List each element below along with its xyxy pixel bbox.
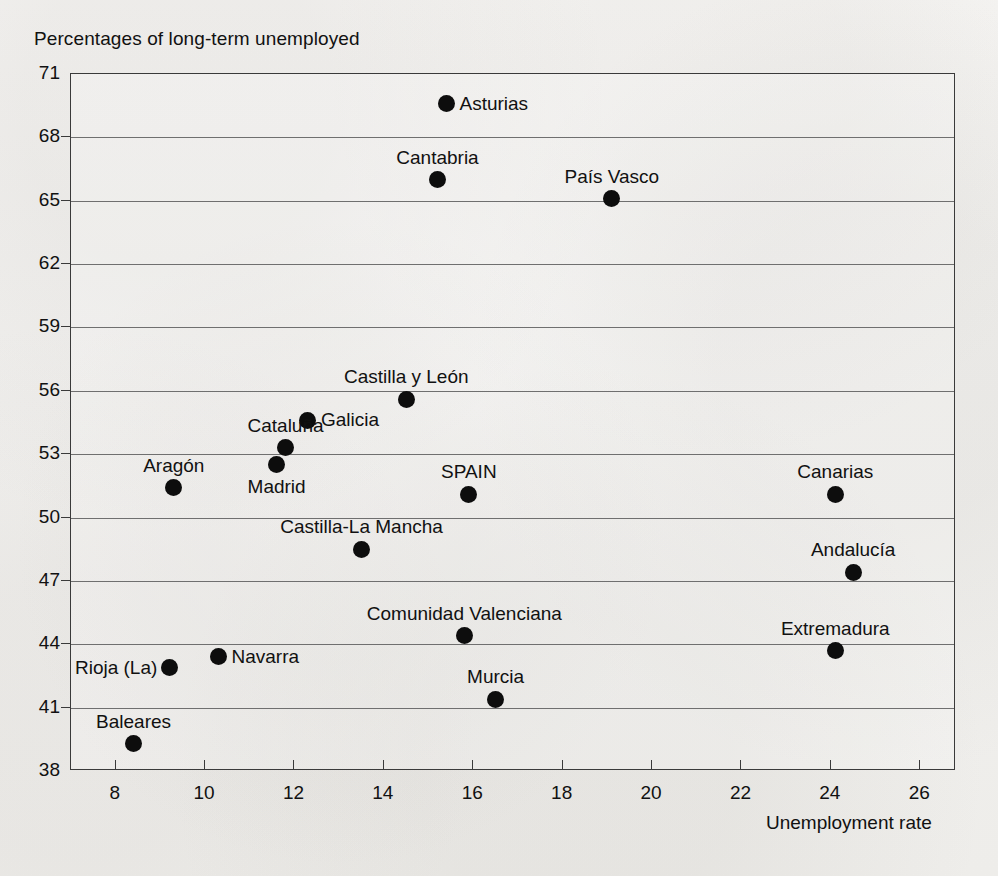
x-axis-tick-mark xyxy=(830,760,831,770)
data-point-label: País Vasco xyxy=(564,166,659,188)
plot-area: AsturiasCantabriaPaís VascoCastilla y Le… xyxy=(70,73,955,770)
y-axis-tick-label: 38 xyxy=(14,759,70,781)
y-axis-tick-label: 68 xyxy=(14,125,70,147)
data-point-label: Andalucía xyxy=(811,539,896,561)
y-axis-tick-label: 62 xyxy=(14,252,70,274)
x-axis-tick-label: 24 xyxy=(819,782,840,804)
data-point-label: Madrid xyxy=(248,476,306,498)
data-point-label: Castilla-La Mancha xyxy=(280,516,443,538)
data-point-marker[interactable] xyxy=(438,95,455,112)
data-point-marker[interactable] xyxy=(487,691,504,708)
data-point-label: Aragón xyxy=(143,455,204,477)
y-axis-tick-label: 59 xyxy=(14,315,70,337)
x-axis-tick-label: 18 xyxy=(551,782,572,804)
x-axis-tick-mark xyxy=(472,760,473,770)
x-axis-tick-mark xyxy=(115,760,116,770)
y-axis-tick-label: 44 xyxy=(14,632,70,654)
y-axis-tick-label: 41 xyxy=(14,696,70,718)
data-point-label: Galicia xyxy=(321,409,379,431)
x-axis-tick-mark xyxy=(293,760,294,770)
data-point-marker[interactable] xyxy=(210,648,227,665)
data-point-label: SPAIN xyxy=(441,461,497,483)
x-axis-tick-label: 26 xyxy=(909,782,930,804)
chart-title: Percentages of long-term unemployed xyxy=(34,28,360,50)
gridline xyxy=(71,201,954,202)
x-axis-tick-label: 8 xyxy=(109,782,120,804)
data-point-label: Comunidad Valenciana xyxy=(367,603,562,625)
data-point-marker[interactable] xyxy=(845,564,862,581)
data-point-marker[interactable] xyxy=(456,627,473,644)
data-point-label: Cantabria xyxy=(396,147,478,169)
data-point-marker[interactable] xyxy=(268,456,285,473)
data-point-marker[interactable] xyxy=(429,171,446,188)
x-axis-tick-label: 10 xyxy=(194,782,215,804)
data-point-marker[interactable] xyxy=(398,391,415,408)
x-axis-title: Unemployment rate xyxy=(766,812,932,834)
gridline xyxy=(71,644,954,645)
data-point-label: Canarias xyxy=(797,461,873,483)
x-axis-tick-label: 14 xyxy=(372,782,393,804)
data-point-marker[interactable] xyxy=(460,486,477,503)
gridline xyxy=(71,708,954,709)
y-axis-tick-label: 56 xyxy=(14,379,70,401)
data-point-label: Extremadura xyxy=(781,618,890,640)
x-axis-tick-label: 16 xyxy=(462,782,483,804)
y-axis-tick-label: 65 xyxy=(14,189,70,211)
x-axis-tick-mark xyxy=(383,760,384,770)
gridline xyxy=(71,264,954,265)
y-axis-tick-label: 47 xyxy=(14,569,70,591)
gridline xyxy=(71,391,954,392)
data-point-marker[interactable] xyxy=(827,486,844,503)
x-axis-tick-mark xyxy=(204,760,205,770)
data-point-marker[interactable] xyxy=(125,735,142,752)
gridline xyxy=(71,581,954,582)
data-point-label: Asturias xyxy=(459,93,528,115)
x-axis-tick-mark xyxy=(919,760,920,770)
data-point-marker[interactable] xyxy=(161,659,178,676)
data-point-label: Rioja (La) xyxy=(75,657,157,679)
x-axis-tick-label: 22 xyxy=(730,782,751,804)
data-point-marker[interactable] xyxy=(165,479,182,496)
data-point-label: Castilla y León xyxy=(344,366,469,388)
x-axis-tick-label: 12 xyxy=(283,782,304,804)
y-axis-tick-label: 50 xyxy=(14,506,70,528)
gridline xyxy=(71,137,954,138)
x-axis-tick-mark xyxy=(562,760,563,770)
data-point-label: Baleares xyxy=(96,711,171,733)
x-axis-tick-mark xyxy=(740,760,741,770)
data-point-marker[interactable] xyxy=(827,642,844,659)
y-axis-tick-label: 53 xyxy=(14,442,70,464)
data-point-label: Navarra xyxy=(232,646,300,668)
scatter-chart-figure: Percentages of long-term unemployed Astu… xyxy=(0,0,998,876)
data-point-marker[interactable] xyxy=(603,190,620,207)
y-axis-tick-label: 71 xyxy=(14,62,70,84)
data-point-label: Murcia xyxy=(467,666,524,688)
data-point-label: Cataluña xyxy=(248,415,324,437)
gridline xyxy=(71,327,954,328)
gridline xyxy=(71,518,954,519)
x-axis-tick-mark xyxy=(651,760,652,770)
data-point-marker[interactable] xyxy=(353,541,370,558)
x-axis-tick-label: 20 xyxy=(640,782,661,804)
